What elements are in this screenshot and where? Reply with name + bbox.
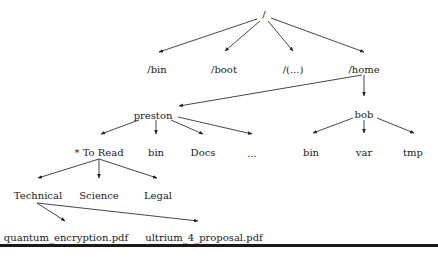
- edge-preston-to-toread: [101, 120, 139, 134]
- node-toread: * To Read: [74, 148, 123, 158]
- node-u4: ultrium_4_proposal.pdf: [145, 233, 263, 243]
- edge-root-to-bin: [159, 19, 257, 52]
- node-bbin: bin: [303, 148, 319, 158]
- node-root: /: [262, 10, 265, 20]
- node-technical: Technical: [14, 191, 62, 201]
- node-tmp: tmp: [403, 148, 423, 158]
- edge-toread-to-legal: [99, 159, 157, 178]
- edge-bob-to-tmp: [377, 118, 414, 133]
- node-legal: Legal: [144, 191, 172, 201]
- edge-root-to-home: [271, 18, 364, 52]
- node-docs: Docs: [191, 148, 216, 158]
- node-pbin: bin: [148, 148, 164, 158]
- directory-tree-diagram: //bin/boot/(...)/homeprestonbob* To Read…: [0, 0, 438, 261]
- bottom-rule: [0, 244, 438, 247]
- node-bin: /bin: [147, 65, 166, 75]
- node-more: ...: [247, 149, 257, 159]
- node-boot: /boot: [211, 65, 237, 75]
- node-science: Science: [79, 191, 119, 201]
- edge-preston-to-more: [178, 117, 252, 134]
- tree-edges: [0, 0, 438, 261]
- node-preston: preston: [134, 111, 173, 121]
- node-etc: /(...): [283, 65, 304, 75]
- node-home: /home: [348, 65, 379, 75]
- edge-root-to-boot: [225, 21, 260, 51]
- node-bob: bob: [355, 110, 374, 120]
- edge-home-to-preston: [179, 75, 362, 106]
- edge-toread-to-technical: [38, 159, 99, 178]
- node-var: var: [356, 148, 372, 158]
- edge-root-to-etc: [268, 21, 293, 51]
- node-qe: quantum_encryption.pdf: [4, 233, 128, 243]
- edge-bob-to-bbin: [313, 118, 353, 133]
